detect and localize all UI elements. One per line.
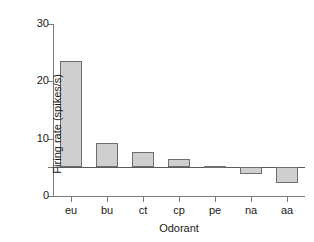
x-tick-label: ct <box>139 204 148 216</box>
baseline-line <box>53 167 305 168</box>
bar <box>204 166 226 168</box>
y-tick-label: 30 <box>37 16 49 31</box>
y-tick-label: 0 <box>43 188 49 203</box>
x-tick-mark <box>143 196 144 202</box>
x-tick-label: pe <box>209 204 221 216</box>
x-tick-mark <box>287 196 288 202</box>
plot-area: 0102030 eubuctcppenaaa Firing rate (spik… <box>53 24 305 196</box>
bar <box>168 159 190 168</box>
x-tick-label: eu <box>65 204 77 216</box>
x-tick-mark <box>107 196 108 202</box>
x-tick-mark <box>71 196 72 202</box>
x-tick-label: aa <box>281 204 293 216</box>
bar <box>240 167 262 174</box>
bar <box>60 61 82 167</box>
x-tick-label: bu <box>101 204 113 216</box>
y-tick-label: 10 <box>37 131 49 146</box>
x-tick-mark <box>179 196 180 202</box>
x-tick-mark <box>215 196 216 202</box>
y-tick-label: 20 <box>37 73 49 88</box>
x-axis-title: Odorant <box>53 222 305 234</box>
bar <box>132 152 154 167</box>
x-tick-mark <box>251 196 252 202</box>
x-tick-label: cp <box>173 204 185 216</box>
y-axis-title: Firing rate (spikes/s) <box>51 74 63 174</box>
bar <box>276 167 298 182</box>
bar-chart-figure: 0102030 eubuctcppenaaa Firing rate (spik… <box>0 0 314 242</box>
x-tick-label: na <box>245 204 257 216</box>
bar <box>96 143 118 167</box>
